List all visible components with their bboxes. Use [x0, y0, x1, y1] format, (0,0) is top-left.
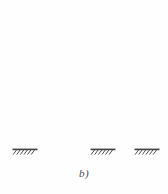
- figure-caption: b): [0, 166, 168, 180]
- beam-group: [23, 14, 147, 118]
- frame-diagram-canvas: [0, 0, 168, 194]
- support-middle-hatching: [91, 150, 113, 155]
- support-right-hatching: [135, 150, 157, 155]
- support-left-hatching: [13, 150, 35, 155]
- column-group: [24, 14, 146, 150]
- support-right: [135, 149, 160, 154]
- support-left: [13, 149, 38, 154]
- support-middle: [91, 149, 116, 154]
- structural-frame-figure: b): [0, 0, 168, 194]
